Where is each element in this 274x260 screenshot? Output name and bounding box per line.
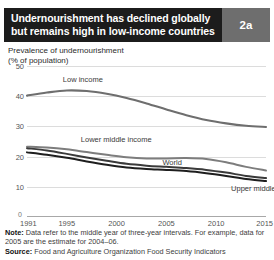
figure-title-line2: but remains high in low-income countries (11, 25, 222, 39)
figure-header: Undernourishment has declined globally b… (4, 8, 270, 42)
figure-footnotes: Note: Data refer to the middle year of t… (5, 228, 271, 256)
figure-note: Note: Data refer to the middle year of t… (5, 228, 271, 247)
source-label: Source: (5, 247, 32, 256)
y-tick-40: 40 (16, 92, 24, 101)
series-line-low-income (27, 90, 266, 127)
y-tick-10: 10 (16, 182, 24, 191)
chart-subtitle-line1: Prevalence of undernourishment (8, 46, 258, 56)
note-label: Note: (5, 228, 24, 237)
series-label-lower-middle-income: Lower middle income (81, 135, 152, 144)
series-label-upper-middle-income: Upper middle income (231, 184, 274, 193)
x-tick-1995: 1995 (58, 219, 75, 228)
y-tick-20: 20 (16, 152, 24, 161)
figure-title-line1: Undernourishment has declined globally (11, 12, 222, 26)
chart-plot-area: 1020304050 199119952000200520102015 0 Lo… (27, 66, 266, 217)
x-tick-2015: 2015 (256, 219, 273, 228)
figure-title: Undernourishment has declined globally b… (4, 8, 222, 42)
figure-container: Undernourishment has declined globally b… (0, 0, 274, 260)
figure-source: Source: Food and Agriculture Organizatio… (5, 247, 271, 256)
y-tick-30: 30 (16, 122, 24, 131)
figure-number-badge: 2a (222, 8, 270, 42)
chart-subtitle: Prevalence of undernourishment (% of pop… (8, 46, 258, 65)
y-tick-50: 50 (16, 62, 24, 71)
x-tick-2000: 2000 (108, 219, 125, 228)
x-tick-2005: 2005 (158, 219, 175, 228)
note-text: Data refer to the middle year of three-y… (5, 228, 264, 246)
series-label-low-income: Low income (63, 75, 103, 84)
series-label-world: World (162, 158, 181, 167)
x-tick-1991: 1991 (20, 219, 37, 228)
chart-zero-tick: 0 (18, 211, 22, 218)
source-text: Food and Agriculture Organization Food S… (32, 247, 225, 256)
chart-subtitle-line2: (% of population) (8, 56, 258, 66)
x-tick-2010: 2010 (208, 219, 225, 228)
series-line-lower-middle-income (27, 147, 266, 171)
series-line-upper-middle-income (27, 152, 266, 181)
